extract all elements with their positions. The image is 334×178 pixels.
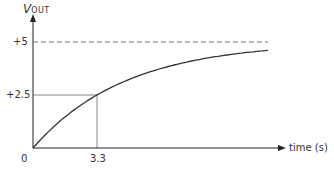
y-tick-2-5: +2.5 xyxy=(6,90,30,100)
y-tick-5: +5 xyxy=(13,37,28,47)
y-axis-label-sub: OUT xyxy=(31,6,50,15)
origin-label: 0 xyxy=(21,154,27,164)
chart-canvas xyxy=(0,0,334,178)
x-axis-label: time (s) xyxy=(289,143,328,153)
y-axis-label: VOUT xyxy=(23,3,50,15)
y-axis-label-main: V xyxy=(23,2,31,16)
x-tick-3-3: 3.3 xyxy=(90,154,106,164)
x-axis-arrow-icon xyxy=(278,145,286,151)
charging-curve xyxy=(33,50,268,148)
